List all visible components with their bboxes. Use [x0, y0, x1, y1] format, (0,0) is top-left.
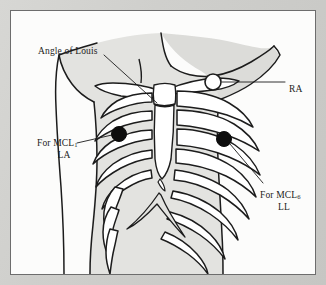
electrode-ll[interactable]	[217, 132, 232, 147]
label-mcl1-subscript: 1	[74, 141, 77, 148]
label-ra: RA	[289, 84, 303, 95]
label-mcl6-subscript: 6	[297, 193, 300, 200]
electrode-la[interactable]	[112, 127, 127, 142]
electrode-ra[interactable]	[205, 74, 221, 90]
label-mcl1-line1: For MCL	[37, 138, 74, 148]
label-ra-text: RA	[289, 84, 303, 94]
label-angle-of-louis: Angle of Louis	[38, 46, 98, 57]
illustration-surface: Angle of Louis RA For MCL1 LA For MCL6 L…	[11, 11, 315, 274]
figure-root: Angle of Louis RA For MCL1 LA For MCL6 L…	[0, 0, 326, 285]
label-mcl6: For MCL6 LL	[260, 190, 324, 213]
label-mcl1: For MCL1 LA	[37, 138, 99, 161]
label-mcl6-line1: For MCL	[260, 190, 297, 200]
label-mcl1-line2: LA	[37, 150, 99, 161]
label-mcl6-line2: LL	[260, 202, 324, 213]
label-angle-of-louis-text: Angle of Louis	[38, 46, 98, 56]
